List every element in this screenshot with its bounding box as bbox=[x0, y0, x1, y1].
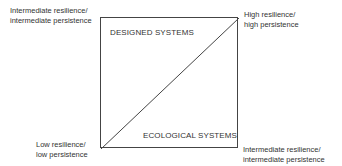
corner-label-top-left: Intermediate resilience/ intermediate pe… bbox=[10, 6, 92, 26]
corner-label-top-right: High resilience/ high persistence bbox=[244, 10, 299, 30]
corner-label-bottom-right: Intermediate resilience/ intermediate pe… bbox=[243, 145, 325, 165]
corner-label-line: low persistence bbox=[36, 150, 88, 160]
designed-systems-label: DESIGNED SYSTEMS bbox=[110, 28, 194, 37]
corner-label-line: intermediate persistence bbox=[10, 16, 92, 26]
corner-label-line: Intermediate resilience/ bbox=[243, 145, 325, 155]
corner-label-line: intermediate persistence bbox=[243, 155, 325, 165]
resilience-persistence-square: DESIGNED SYSTEMS ECOLOGICAL SYSTEMS bbox=[100, 17, 238, 148]
corner-label-line: High resilience/ bbox=[244, 10, 299, 20]
corner-label-line: Low resilience/ bbox=[36, 140, 88, 150]
corner-label-bottom-left: Low resilience/ low persistence bbox=[36, 140, 88, 160]
diagonal-divider bbox=[101, 18, 239, 149]
ecological-systems-label: ECOLOGICAL SYSTEMS bbox=[143, 131, 237, 140]
corner-label-line: high persistence bbox=[244, 20, 299, 30]
corner-label-line: Intermediate resilience/ bbox=[10, 6, 92, 16]
